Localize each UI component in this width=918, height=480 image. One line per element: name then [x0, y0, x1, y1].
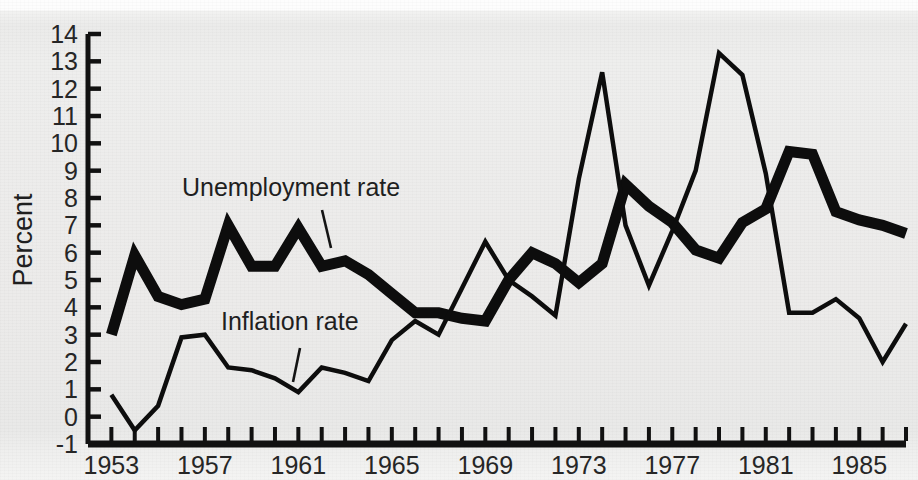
chart-figure: 14131211109876543210-1 19531957196119651… [0, 0, 918, 480]
x-axis-tick-label: 1953 [84, 451, 140, 479]
y-axis: 14131211109876543210-1 [50, 20, 101, 458]
x-axis-tick-label: 1965 [364, 451, 420, 479]
x-axis-tick-label: 1981 [738, 451, 794, 479]
inflation-label: Inflation rate [221, 307, 359, 335]
unemployment-label-leader-line [322, 210, 331, 248]
series-line-inflation-rate [111, 53, 906, 430]
x-axis-tick-label: 1985 [831, 451, 887, 479]
x-axis-tick-label: 1957 [177, 451, 233, 479]
x-axis-tick-label: 1977 [644, 451, 700, 479]
x-axis-tick-label: 1961 [271, 451, 327, 479]
y-axis-tick-label: 12 [50, 75, 78, 103]
y-axis-tick-label: 8 [64, 184, 78, 212]
y-axis-tick-label: 9 [64, 157, 78, 185]
y-axis-tick-label: 4 [64, 293, 78, 321]
y-axis-tick-label: 14 [50, 20, 78, 48]
unemployment-label: Unemployment rate [182, 173, 400, 201]
y-axis-tick-label: 5 [64, 266, 78, 294]
series-lines [111, 53, 906, 430]
y-axis-tick-label: 1 [64, 375, 78, 403]
chart-canvas: 14131211109876543210-1 19531957196119651… [0, 0, 918, 480]
x-axis: 195319571961196519691973197719811985 [84, 427, 906, 479]
y-axis-tick-label: 0 [64, 403, 78, 431]
y-axis-title: Percent [8, 193, 38, 287]
x-axis-tick-label: 1969 [458, 451, 514, 479]
y-axis-tick-label: -1 [56, 430, 78, 458]
y-axis-tick-label: 2 [64, 348, 78, 376]
y-axis-tick-label: 11 [52, 102, 78, 130]
y-axis-tick-label: 10 [50, 129, 78, 157]
x-axis-tick-label: 1973 [551, 451, 607, 479]
y-axis-tick-label: 13 [50, 47, 78, 75]
y-axis-tick-label: 7 [64, 211, 78, 239]
inflation-label-leader-line [293, 348, 300, 382]
y-axis-tick-label: 6 [64, 239, 78, 267]
y-axis-tick-label: 3 [64, 321, 78, 349]
